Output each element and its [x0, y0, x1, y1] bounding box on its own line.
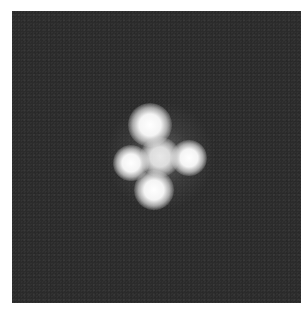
astronomical-image	[12, 11, 301, 303]
lensing-galaxy-core	[140, 137, 180, 177]
